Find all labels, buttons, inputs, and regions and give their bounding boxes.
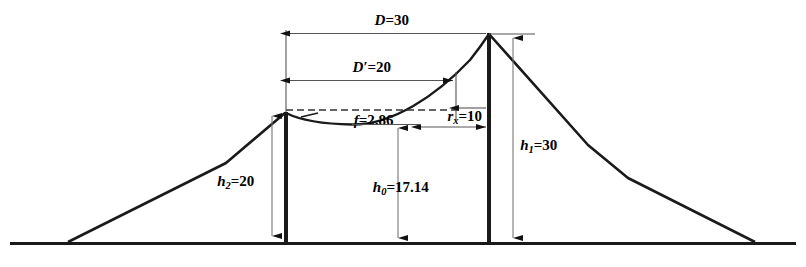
dimension-h0-label: h0=17.14 [339, 179, 455, 197]
dimension-f-sag: f=2.86 [301, 112, 420, 128]
dimension-h1-var: h [520, 137, 528, 153]
diagram-canvas: D=30 D′=20 f=2.86 rx=10 [0, 0, 806, 267]
dimension-rx-label: rx=10 [414, 108, 509, 126]
f-leader-line [301, 113, 318, 117]
dimension-f-value: =2.86 [359, 112, 394, 128]
dimension-h0: h0=17.14 [339, 125, 455, 239]
dimension-D-prime-label: D′=20 [319, 59, 418, 75]
dimension-h2-var: h [217, 173, 225, 189]
dimension-rx-value: =10 [459, 108, 483, 124]
dimension-f-label: f=2.86 [320, 112, 420, 128]
dimension-D-label: D=30 [341, 12, 435, 28]
dimension-h1: h1=30 [486, 34, 583, 238]
profile-diagram-svg: D=30 D′=20 f=2.86 rx=10 [0, 0, 806, 267]
dimension-h2: h2=20 [183, 116, 280, 236]
right-slope-line [489, 34, 755, 242]
dimension-D-prime-value: =20 [368, 59, 392, 75]
dimension-h1-value: =30 [534, 137, 558, 153]
dimension-h2-value: =20 [231, 173, 255, 189]
dimension-rx: rx=10 [414, 108, 509, 127]
dimension-h1-label: h1=30 [486, 137, 583, 155]
right-terrain-slope [489, 34, 755, 242]
dimension-D-var: D [374, 12, 386, 28]
dimension-h0-value: =17.14 [386, 179, 429, 195]
dimension-D-value: =30 [385, 12, 409, 28]
dimension-D-prime-var: D [351, 59, 363, 75]
dimension-h2-label: h2=20 [183, 173, 280, 191]
dimension-h0-var: h [373, 179, 381, 195]
